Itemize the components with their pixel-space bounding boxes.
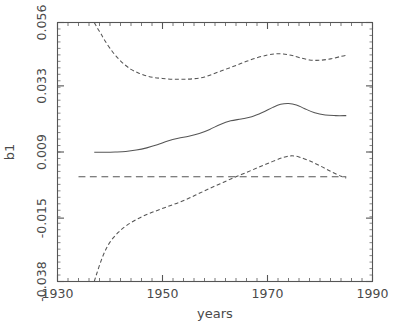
series-line-lower-confidence-band xyxy=(94,156,346,282)
y-tick-label: 0.009 xyxy=(34,134,49,170)
y-tick-label: -0.038 xyxy=(34,261,49,301)
y-tick-label: 0.056 xyxy=(34,5,49,41)
line-chart-canvas: 1930195019701990-0.038-0.0150.0090.0330.… xyxy=(0,0,401,335)
x-tick-label: 1950 xyxy=(147,286,179,301)
series-line-fitted-estimate xyxy=(94,103,346,152)
x-tick-label: 1990 xyxy=(357,286,389,301)
y-tick-label: 0.033 xyxy=(34,68,49,104)
chart-figure: 1930195019701990-0.038-0.0150.0090.0330.… xyxy=(0,0,401,335)
y-axis-title: b1 xyxy=(2,144,17,161)
x-axis-title: years xyxy=(197,306,233,321)
y-tick-label: -0.015 xyxy=(34,198,49,238)
x-tick-label: 1970 xyxy=(252,286,284,301)
series-line-upper-confidence-band xyxy=(94,23,346,80)
